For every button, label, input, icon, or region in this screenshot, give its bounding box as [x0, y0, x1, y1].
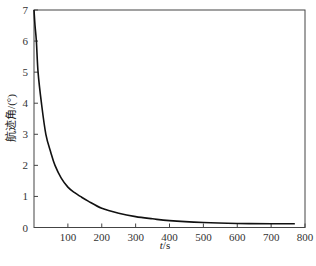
x-tick-label: 600 — [229, 231, 246, 243]
y-tick-label: 5 — [23, 66, 29, 78]
x-tick-label: 800 — [297, 231, 314, 243]
x-axis-ticks: 100200300400500600700800 — [60, 224, 314, 243]
y-tick-label: 2 — [23, 159, 29, 171]
y-tick-label: 1 — [23, 190, 29, 202]
y-tick-label: 7 — [23, 4, 29, 16]
y-axis-label: 航迹角/(°) — [4, 94, 18, 142]
y-tick-label: 0 — [23, 222, 29, 234]
x-tick-label: 500 — [195, 231, 212, 243]
x-axis-label: t/s — [160, 239, 170, 251]
x-tick-label: 700 — [263, 231, 280, 243]
x-tick-label: 100 — [60, 231, 77, 243]
y-tick-label: 4 — [23, 97, 29, 109]
x-tick-label: 200 — [94, 231, 111, 243]
y-tick-label: 3 — [23, 128, 29, 140]
track-angle-curve — [34, 10, 295, 224]
x-tick-label: 300 — [127, 231, 144, 243]
plot-area — [34, 10, 305, 228]
y-tick-label: 6 — [23, 35, 29, 47]
line-chart: 100200300400500600700800 01234567 t/s 航迹… — [0, 0, 316, 266]
